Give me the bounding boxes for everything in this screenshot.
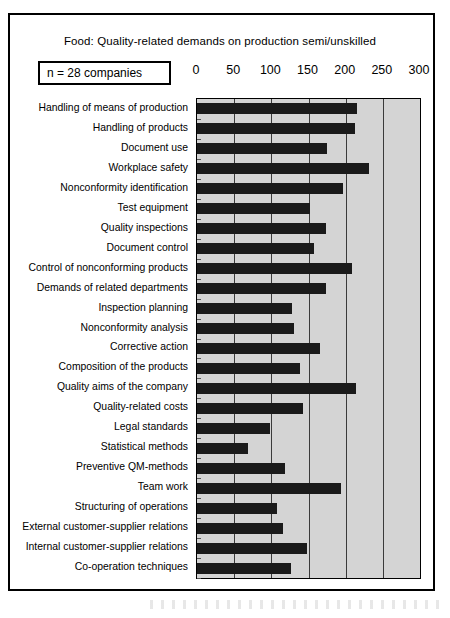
y-tick-mark [197, 239, 201, 240]
y-tick-mark [197, 219, 201, 220]
bar [197, 503, 277, 514]
x-axis-tick-labels: 050100150200250300 [196, 63, 419, 83]
y-tick-mark [197, 159, 201, 160]
bar [197, 143, 327, 154]
y-tick-mark [197, 378, 201, 379]
bar [197, 183, 343, 194]
x-tick-label-50: 50 [226, 63, 240, 77]
x-tick-label-150: 150 [297, 63, 318, 77]
y-tick-mark [197, 339, 201, 340]
bar [197, 263, 352, 274]
gridline-250 [383, 99, 384, 578]
y-tick-mark [197, 498, 201, 499]
category-label: Demands of related departments [37, 282, 188, 293]
y-tick-mark [197, 518, 201, 519]
bar [197, 483, 341, 494]
y-tick-mark [197, 259, 201, 260]
category-label: Control of nonconforming products [29, 262, 188, 273]
y-axis-category-labels: Handling of means of productionHandling … [10, 98, 194, 577]
bar [197, 363, 300, 374]
bar [197, 323, 294, 334]
y-tick-mark [197, 358, 201, 359]
bar [197, 523, 283, 534]
category-label: Nonconformity identification [60, 182, 188, 193]
category-label: Quality-related costs [93, 401, 188, 412]
y-tick-mark [197, 199, 201, 200]
category-label: Preventive QM-methods [76, 461, 188, 472]
y-tick-mark [197, 538, 201, 539]
bar [197, 563, 291, 574]
category-label: Document control [107, 242, 188, 253]
y-tick-mark [197, 438, 201, 439]
category-label: External customer-supplier relations [22, 521, 188, 532]
category-label: Inspection planning [98, 302, 188, 313]
y-tick-mark [197, 319, 201, 320]
bar [197, 403, 303, 414]
x-tick-label-200: 200 [334, 63, 355, 77]
bar [197, 343, 320, 354]
y-tick-mark [197, 119, 201, 120]
bar [197, 103, 357, 114]
bar [197, 543, 307, 554]
category-label: Workplace safety [108, 162, 188, 173]
category-label: Team work [138, 481, 188, 492]
chart-title: Food: Quality-related demands on product… [64, 35, 376, 47]
category-label: Statistical methods [101, 441, 188, 452]
y-tick-mark [197, 558, 201, 559]
category-label: Handling of products [93, 122, 188, 133]
category-label: Composition of the products [59, 361, 188, 372]
category-label: Corrective action [110, 341, 188, 352]
sample-size-text: n = 28 companies [47, 66, 142, 80]
category-label: Document use [121, 142, 188, 153]
bar [197, 423, 270, 434]
sample-size-annotation: n = 28 companies [38, 61, 171, 85]
page-artifact [150, 600, 440, 609]
category-label: Legal standards [114, 421, 188, 432]
plot-area [196, 98, 421, 579]
y-tick-mark [197, 478, 201, 479]
y-tick-mark [197, 279, 201, 280]
bar [197, 303, 292, 314]
category-label: Nonconformity analysis [81, 322, 188, 333]
y-tick-mark [197, 299, 201, 300]
category-label: Structuring of operations [75, 501, 188, 512]
bar [197, 203, 310, 214]
category-label: Handling of means of production [38, 102, 188, 113]
bar [197, 383, 356, 394]
bar [197, 443, 248, 454]
x-tick-label-0: 0 [193, 63, 200, 77]
y-tick-mark [197, 139, 201, 140]
y-tick-mark [197, 179, 201, 180]
y-tick-mark [197, 578, 201, 579]
x-tick-label-300: 300 [409, 63, 430, 77]
y-tick-mark [197, 418, 201, 419]
bar [197, 123, 355, 134]
y-tick-mark [197, 458, 201, 459]
chart-frame: Food: Quality-related demands on product… [8, 13, 435, 591]
category-label: Quality inspections [101, 222, 188, 233]
bar [197, 243, 314, 254]
bar [197, 223, 326, 234]
bar [197, 283, 326, 294]
bar [197, 463, 285, 474]
category-label: Internal customer-supplier relations [26, 541, 188, 552]
x-tick-label-250: 250 [371, 63, 392, 77]
category-label: Quality aims of the company [57, 381, 188, 392]
bar [197, 163, 369, 174]
category-label: Co-operation techniques [75, 561, 188, 572]
y-tick-mark [197, 398, 201, 399]
x-tick-label-100: 100 [260, 63, 281, 77]
category-label: Test equipment [118, 202, 188, 213]
